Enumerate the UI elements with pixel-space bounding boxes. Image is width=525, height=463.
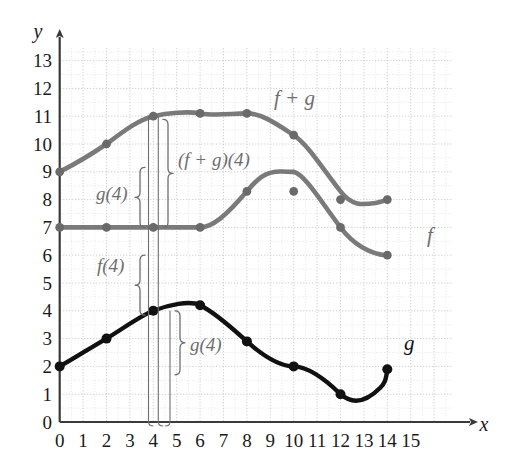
y-axis-label: y xyxy=(32,20,43,43)
x-tick-13: 13 xyxy=(354,430,373,451)
y-tick-11: 11 xyxy=(34,106,52,127)
curve-label-f: f xyxy=(427,223,436,247)
annotation-g-of-4-upper-label: g(4) xyxy=(96,183,128,205)
x-tick-11: 11 xyxy=(308,430,326,451)
y-tick-7: 7 xyxy=(43,217,53,238)
brace-g-of-4-upper xyxy=(135,167,145,227)
x-tick-9: 9 xyxy=(266,430,276,451)
curve-label-f-plus-g: f + g xyxy=(274,86,315,110)
x-tick-10: 10 xyxy=(284,430,303,451)
annotation-g-of-4-lower-label: g(4) xyxy=(190,334,222,356)
x-tick-3: 3 xyxy=(125,430,135,451)
y-tick-12: 12 xyxy=(33,78,52,99)
y-tick-0: 0 xyxy=(43,412,53,433)
x-tick-2: 2 xyxy=(102,430,112,451)
grid-minor xyxy=(60,48,452,422)
x-tick-0: 0 xyxy=(55,430,65,451)
x-tick-6: 6 xyxy=(195,430,205,451)
x-tick-7: 7 xyxy=(219,430,229,451)
x-tick-15: 15 xyxy=(401,430,420,451)
curve-label-g: g xyxy=(404,331,415,355)
x-tick-4: 4 xyxy=(149,430,159,451)
grid-major xyxy=(60,48,452,422)
y-tick-labels: 0 1 2 3 4 5 6 7 8 9 10 11 12 13 xyxy=(33,50,53,433)
y-tick-2: 2 xyxy=(43,356,53,377)
function-sum-graph-figure: y x 0 1 2 3 4 5 6 7 8 9 10 11 12 13 0 1 … xyxy=(0,0,525,463)
annotation-connectors xyxy=(149,116,171,426)
brace-f-of-4 xyxy=(135,255,145,315)
x-axis-label: x xyxy=(479,413,489,435)
annotation-sum-of-4-label: (f + g)(4) xyxy=(178,149,250,171)
plot-canvas: y x 0 1 2 3 4 5 6 7 8 9 10 11 12 13 0 1 … xyxy=(0,0,525,463)
y-tick-3: 3 xyxy=(43,328,53,349)
annotation-f-of-4-label: f(4) xyxy=(97,255,124,277)
brace-sum-of-4 xyxy=(163,119,173,227)
y-tick-6: 6 xyxy=(43,245,53,266)
x-tick-8: 8 xyxy=(242,430,252,451)
x-tick-5: 5 xyxy=(172,430,182,451)
x-tick-14: 14 xyxy=(378,430,398,451)
y-tick-4: 4 xyxy=(43,300,53,321)
y-tick-13: 13 xyxy=(33,50,52,71)
x-tick-labels: 0 1 2 3 4 5 6 7 8 9 10 11 12 13 14 15 xyxy=(55,430,420,451)
x-tick-1: 1 xyxy=(78,430,88,451)
y-tick-5: 5 xyxy=(43,273,53,294)
y-tick-10: 10 xyxy=(33,134,52,155)
x-tick-12: 12 xyxy=(331,430,350,451)
y-tick-8: 8 xyxy=(43,189,53,210)
y-tick-1: 1 xyxy=(43,384,53,405)
y-tick-9: 9 xyxy=(43,161,53,182)
